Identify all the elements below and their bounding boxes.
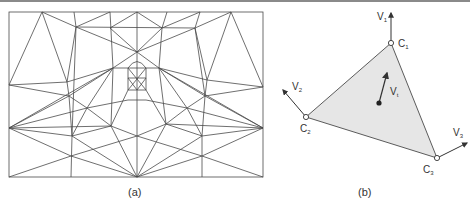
node-c2 bbox=[303, 114, 308, 119]
mesh-frame bbox=[9, 12, 263, 177]
triangle-panel-b: V1 C1 V2 C2 V3 C3 Vt bbox=[283, 11, 467, 176]
label-c1: C1 bbox=[398, 38, 409, 50]
figure-canvas: V1 C1 V2 C2 V3 C3 Vt bbox=[0, 0, 475, 206]
caption-b: (b) bbox=[358, 186, 371, 198]
interior-point bbox=[376, 100, 381, 105]
label-v1: V1 bbox=[377, 11, 388, 23]
caption-a: (a) bbox=[128, 186, 141, 198]
label-v2: V2 bbox=[292, 81, 303, 93]
label-c2: C2 bbox=[300, 123, 311, 135]
node-c1 bbox=[388, 40, 393, 45]
shaded-triangle bbox=[306, 43, 437, 158]
label-c3: C3 bbox=[423, 164, 434, 176]
label-v3: V3 bbox=[453, 127, 464, 139]
node-c3 bbox=[434, 155, 439, 160]
mesh-panel-a bbox=[9, 12, 263, 177]
vector-v2 bbox=[283, 90, 306, 117]
vector-v3 bbox=[437, 143, 467, 158]
